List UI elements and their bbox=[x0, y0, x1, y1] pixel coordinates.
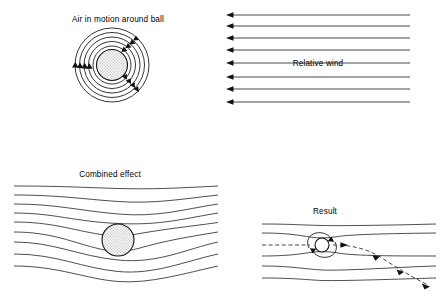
panel-title-relative-wind: Relative wind bbox=[293, 59, 344, 68]
panel-title-air-in-motion: Air in motion around ball bbox=[72, 15, 164, 24]
panel-title-result: Result bbox=[313, 207, 338, 216]
ball-combined-effect bbox=[102, 224, 134, 256]
magnus-effect-figure: Air in motion around ball bbox=[0, 0, 440, 301]
ball-result bbox=[315, 238, 329, 252]
panel-title-combined-effect: Combined effect bbox=[79, 170, 141, 179]
